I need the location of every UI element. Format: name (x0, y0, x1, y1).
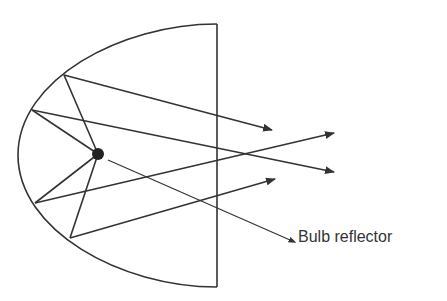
reflector-diagram (0, 0, 447, 301)
label-leader-line (108, 160, 290, 240)
rays-to-bulb (32, 75, 98, 238)
reflected-rays (32, 75, 334, 238)
reflector-outline (18, 24, 217, 287)
bulb-icon (92, 148, 104, 160)
bulb-reflector-label: Bulb reflector (298, 228, 392, 246)
